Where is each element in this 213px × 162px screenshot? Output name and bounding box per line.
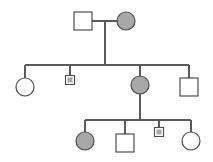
generation-2-symbols: [16, 76, 198, 97]
individual-III-4-female-unaffected-circle[interactable]: [182, 132, 200, 150]
generation-3-symbols: [76, 128, 200, 153]
sibship-group-generation-3: [85, 120, 191, 134]
pedigree-canvas: [0, 0, 213, 162]
individual-I-1-male-unaffected-square[interactable]: [74, 12, 92, 30]
small-square-fill: [68, 78, 73, 83]
individual-II-4-male-unaffected-square[interactable]: [180, 78, 198, 96]
individual-III-1-female-affected-circle[interactable]: [76, 132, 94, 150]
individual-II-1-female-unaffected-circle[interactable]: [16, 78, 34, 96]
individual-II-2-male-affected-small-square[interactable]: [66, 76, 75, 85]
pedigree-chart: [0, 0, 213, 162]
individual-II-3-female-affected-circle[interactable]: [131, 76, 149, 94]
mating-group-generation-1: [92, 21, 117, 65]
individual-III-2-male-unaffected-square[interactable]: [116, 134, 134, 152]
individual-III-3-male-affected-small-square[interactable]: [155, 128, 164, 137]
sibship-group-generation-2: [25, 65, 189, 78]
small-square-fill: [157, 130, 162, 135]
individual-I-2-female-affected-circle[interactable]: [117, 12, 135, 30]
